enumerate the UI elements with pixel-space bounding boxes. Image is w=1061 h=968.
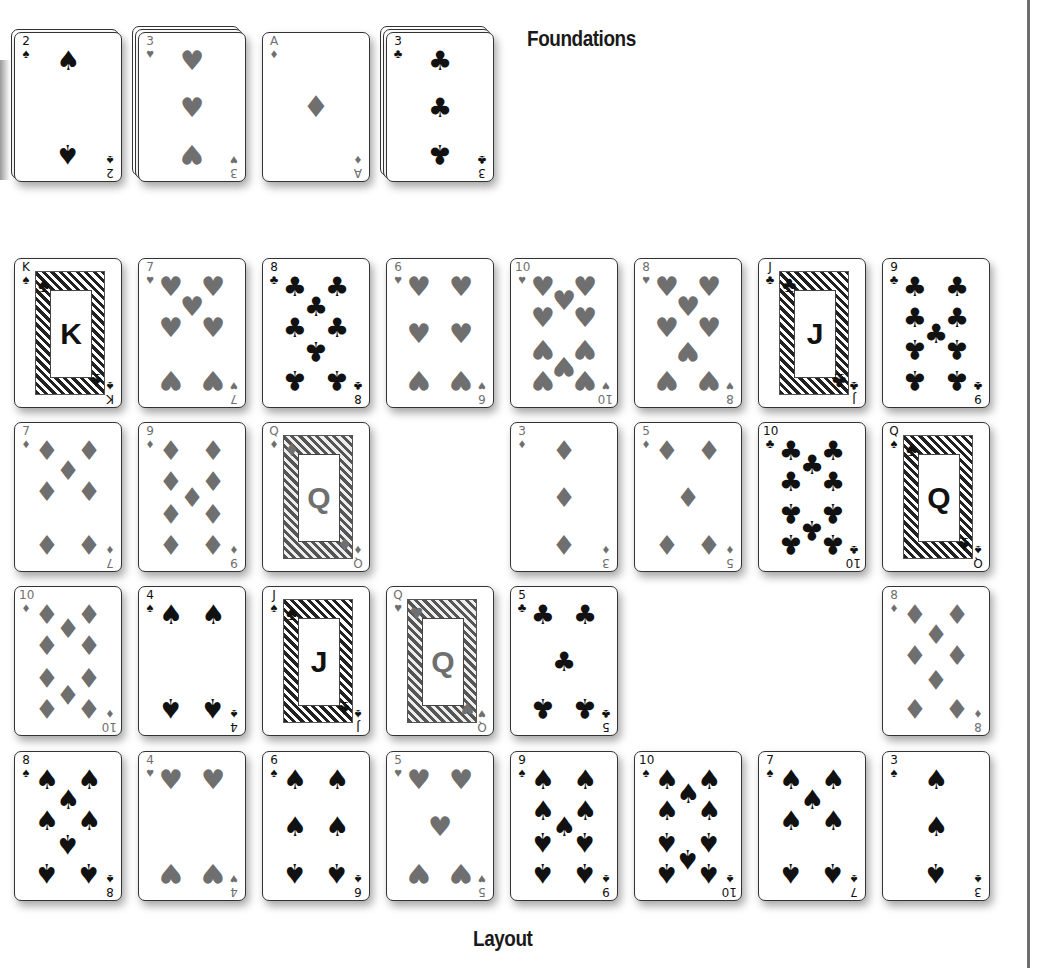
card-j-of-spades[interactable]: J♠J♠J♠♠ (262, 586, 370, 736)
spade-icon: ♠ (639, 766, 653, 779)
diamond-icon: ♦ (77, 531, 101, 558)
card-rank: J (351, 721, 365, 733)
card-5-of-diamonds[interactable]: 5♦5♦♦♦♦♦♦ (634, 422, 742, 572)
card-index-top: 4♠ (143, 589, 157, 614)
card-8-of-spades[interactable]: 8♠8♠♠♠♠♠♠♠♠♠ (14, 751, 122, 901)
card-6-of-hearts[interactable]: 6♥6♥♥♥♥♥♥♥ (386, 258, 494, 408)
card-9-of-spades[interactable]: 9♠9♠♠♠♠♠♠♠♠♠♠ (510, 751, 618, 901)
card-index-top: 6♥ (391, 261, 405, 286)
heart-icon: ♥ (180, 46, 204, 73)
heart-icon: ♥ (201, 272, 225, 299)
heart-icon: ♥ (407, 765, 431, 792)
club-icon: ♣ (428, 94, 452, 121)
card-index-bot: 8♣ (351, 380, 365, 405)
diamond-icon: ♦ (945, 642, 969, 669)
diamond-icon: ♦ (35, 631, 59, 658)
diamond-icon: ♦ (35, 695, 59, 722)
heart-icon: ♥ (573, 303, 597, 330)
diamond-icon: ♦ (903, 695, 927, 722)
card-index-bot: 10♠ (723, 873, 737, 898)
card-8-of-clubs[interactable]: 8♣8♣♣♣♣♣♣♣♣♣ (262, 258, 370, 408)
card-6-of-spades[interactable]: 6♠6♠♠♠♠♠♠♠ (262, 751, 370, 901)
card-index-top: 8♣ (267, 261, 281, 286)
card-q-of-spades[interactable]: Q♠Q♠Q♠♠ (882, 422, 990, 572)
card-rank: 7 (227, 393, 241, 405)
card-index-bot: J♣ (847, 380, 861, 405)
heart-icon: ♥ (201, 860, 225, 887)
card-4-of-hearts[interactable]: 4♥4♥♥♥♥♥ (138, 751, 246, 901)
heart-icon: ♥ (143, 766, 157, 779)
spade-icon: ♠ (286, 600, 298, 626)
card-9-of-clubs[interactable]: 9♣9♣♣♣♣♣♣♣♣♣♣ (882, 258, 990, 408)
card-9-of-diamonds[interactable]: 9♦9♦♦♦♦♦♦♦♦♦♦ (138, 422, 246, 572)
card-index-bot: 8♠ (103, 873, 117, 898)
card-q-of-diamonds[interactable]: Q♦Q♦Q♦♦ (262, 422, 370, 572)
card-rank: 8 (103, 886, 117, 898)
card-5-of-clubs[interactable]: 5♣5♣♣♣♣♣♣ (510, 586, 618, 736)
card-index-bot: 9♦ (227, 544, 241, 569)
card-10-of-clubs[interactable]: 10♣10♣♣♣♣♣♣♣♣♣♣♣ (758, 422, 866, 572)
card-7-of-spades[interactable]: 7♠7♠♠♠♠♠♠♠♠ (758, 751, 866, 901)
card-rank: 9 (971, 393, 985, 405)
card-10-of-hearts[interactable]: 10♥10♥♥♥♥♥♥♥♥♥♥♥ (510, 258, 618, 408)
spade-icon: ♠ (351, 708, 365, 721)
card-index-bot: J♠ (351, 708, 365, 733)
card-3-of-clubs[interactable]: 3♣3♣♣♣♣ (386, 32, 494, 182)
card-k-of-spades[interactable]: K♠K♠K♠♠ (14, 258, 122, 408)
card-rank: 10 (723, 886, 737, 898)
diamond-icon: ♦ (552, 531, 576, 558)
club-icon: ♣ (821, 500, 845, 527)
card-4-of-spades[interactable]: 4♠4♠♠♠♠♠ (138, 586, 246, 736)
card-3-of-spades[interactable]: 3♠3♠♠♠♠ (882, 751, 990, 901)
heart-icon: ♥ (676, 337, 700, 364)
card-index-bot: 6♥ (475, 380, 489, 405)
card-index-top: Q♠ (887, 425, 901, 450)
heart-icon: ♥ (391, 766, 405, 779)
spade-icon: ♠ (351, 873, 365, 886)
diamond-icon: ♦ (599, 544, 613, 557)
diamond-icon: ♦ (655, 436, 679, 463)
card-rank: 7 (103, 557, 117, 569)
card-index-bot: 3♦ (599, 544, 613, 569)
club-icon: ♣ (531, 695, 555, 722)
card-3-of-diamonds[interactable]: 3♦3♦♦♦♦ (510, 422, 618, 572)
diamond-icon: ♦ (77, 436, 101, 463)
card-index-top: 8♠ (19, 754, 33, 779)
card-3-of-hearts[interactable]: 3♥3♥♥♥♥ (138, 32, 246, 182)
card-index-top: 7♥ (143, 261, 157, 286)
spade-icon: ♠ (924, 860, 948, 887)
club-icon: ♣ (821, 531, 845, 558)
heart-icon: ♥ (227, 154, 241, 167)
card-index-bot: 7♠ (847, 873, 861, 898)
spade-icon: ♠ (56, 141, 80, 168)
spade-icon: ♠ (924, 813, 948, 840)
card-10-of-diamonds[interactable]: 10♦10♦♦♦♦♦♦♦♦♦♦♦ (14, 586, 122, 736)
divider-line (1027, 0, 1030, 968)
card-rank: Q (475, 721, 489, 733)
card-7-of-diamonds[interactable]: 7♦7♦♦♦♦♦♦♦♦ (14, 422, 122, 572)
card-10-of-spades[interactable]: 10♠10♠♠♠♠♠♠♠♠♠♠♠ (634, 751, 742, 901)
card-index-top: 3♠ (887, 754, 901, 779)
face-card-artwork: Q♥♥ (407, 599, 477, 723)
club-icon: ♣ (283, 367, 307, 394)
card-5-of-hearts[interactable]: 5♥5♥♥♥♥♥♥ (386, 751, 494, 901)
diamond-icon: ♦ (339, 532, 350, 558)
heart-icon: ♥ (449, 272, 473, 299)
heart-icon: ♥ (449, 320, 473, 347)
card-index-top: 9♦ (143, 425, 157, 450)
card-8-of-diamonds[interactable]: 8♦8♦♦♦♦♦♦♦♦♦ (882, 586, 990, 736)
card-2-of-spades[interactable]: 2♠2♠♠♠ (14, 32, 122, 182)
diamond-icon: ♦ (924, 665, 948, 692)
card-7-of-hearts[interactable]: 7♥7♥♥♥♥♥♥♥♥ (138, 258, 246, 408)
heart-icon: ♥ (159, 314, 183, 341)
diamond-icon: ♦ (201, 436, 225, 463)
face-card-artwork: K♠♠ (35, 271, 105, 395)
heart-icon: ♥ (723, 380, 737, 393)
club-icon: ♣ (779, 467, 803, 494)
card-j-of-clubs[interactable]: J♣J♣J♣♣ (758, 258, 866, 408)
card-q-of-hearts[interactable]: Q♥Q♥Q♥♥ (386, 586, 494, 736)
card-a-of-diamonds[interactable]: A♦A♦♦ (262, 32, 370, 182)
card-8-of-hearts[interactable]: 8♥8♥♥♥♥♥♥♥♥♥ (634, 258, 742, 408)
spade-icon: ♠ (38, 272, 50, 298)
card-rank: 5 (475, 886, 489, 898)
